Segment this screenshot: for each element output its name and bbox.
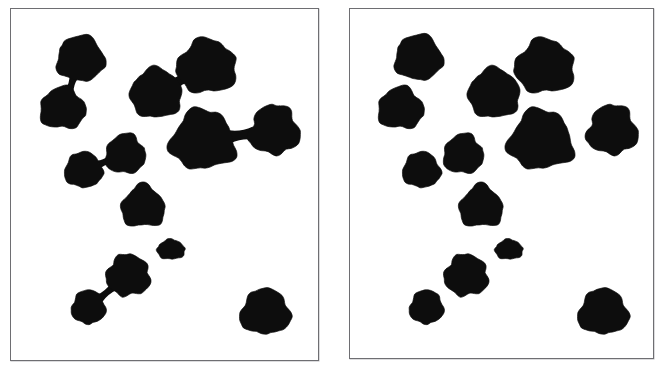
- blob-small-isolated-blob: [494, 239, 523, 260]
- panel-separated-binary-image: [349, 8, 654, 359]
- blob-bottom-right-blob: [578, 288, 631, 335]
- blob-mid-left-small-blob: [402, 151, 442, 188]
- blob-center-large-blob: [167, 107, 237, 169]
- blob-top-left-lower-blob: [378, 85, 424, 129]
- blob-right-edge-blob: [585, 104, 638, 156]
- blob-lower-center-blob: [458, 182, 503, 226]
- blob-upper-right-large-blob: [176, 37, 237, 93]
- blob-canvas-right: [350, 9, 653, 358]
- blob-top-left-upper-blob: [394, 33, 444, 80]
- blob-canvas-left: [11, 9, 318, 360]
- blob-lower-center-blob: [120, 182, 165, 226]
- blob-bottom-left-cluster-upper-blob: [443, 254, 489, 297]
- blob-mid-center-blob: [443, 133, 484, 174]
- blob-top-left-lower-blob: [40, 85, 86, 129]
- blob-upper-right-large-blob: [514, 37, 575, 93]
- figure-root: [0, 0, 665, 370]
- blob-top-left-upper-blob: [56, 34, 106, 81]
- blob-small-isolated-blob: [156, 239, 185, 260]
- blob-upper-middle-blob: [467, 65, 520, 117]
- blob-bottom-right-blob: [240, 288, 293, 335]
- blob-bottom-left-cluster-lower-blob: [409, 290, 444, 325]
- blob-mid-left-small-blob: [64, 151, 104, 188]
- blob-right-edge-blob: [247, 104, 300, 156]
- panel-original-binary-image: [10, 8, 319, 361]
- blob-mid-center-blob: [105, 133, 146, 174]
- blob-center-large-blob: [505, 107, 575, 169]
- blob-upper-middle-blob: [129, 65, 182, 117]
